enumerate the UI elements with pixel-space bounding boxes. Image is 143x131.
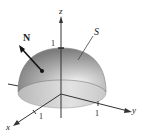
surface-label: S xyxy=(94,26,99,37)
diagram-canvas: z 1 N S y 1 x 1 xyxy=(0,0,143,131)
y-tick-label: 1 xyxy=(95,109,99,118)
y-axis-label: y xyxy=(131,105,136,115)
x-axis-arrowhead xyxy=(13,120,20,126)
hemisphere-diagram: z 1 N S y 1 x 1 xyxy=(0,0,143,131)
x-axis-label: x xyxy=(5,122,10,131)
normal-label: N xyxy=(23,32,31,43)
y-axis-arrowhead xyxy=(124,108,132,113)
x-tick-label: 1 xyxy=(39,112,43,121)
z-axis-arrowhead xyxy=(59,16,63,23)
normal-base-point xyxy=(40,69,44,73)
z-tick-label: 1 xyxy=(51,39,55,48)
z-axis-label: z xyxy=(58,6,63,16)
